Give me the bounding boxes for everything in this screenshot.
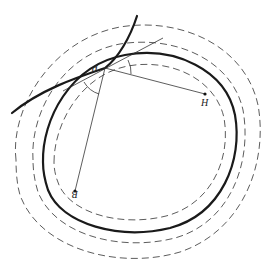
- label-p: P: [92, 63, 99, 74]
- outer-dashed-curve: [15, 25, 260, 258]
- crossing-curve: [12, 16, 137, 113]
- segment-p-h: [105, 68, 205, 94]
- angle-arc-right: [128, 60, 131, 74]
- point-h-marker: [203, 92, 206, 95]
- inner-dashed-curve: [54, 64, 225, 220]
- geometry-diagram: P H B: [0, 0, 270, 262]
- tangent-line: [63, 38, 163, 91]
- segment-p-b: [75, 68, 105, 191]
- label-h: H: [200, 97, 209, 108]
- label-b: B: [72, 189, 78, 200]
